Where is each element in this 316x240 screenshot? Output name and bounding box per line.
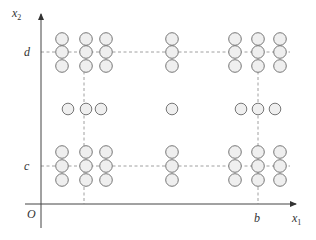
sample-circle [274,160,287,173]
sample-circle [62,103,74,115]
sample-circle [252,33,265,46]
sample-circle [80,146,93,159]
sample-circle [56,60,69,73]
sample-circle [235,103,247,115]
sample-circle [100,33,113,46]
sample-circle [166,174,179,187]
sample-circles [56,33,287,187]
sample-circle [80,60,93,73]
tick-label-c: c [24,159,30,173]
sample-circle [252,146,265,159]
x-axis-label: x1 [291,211,301,227]
sample-circle [274,174,287,187]
sample-circle [80,160,93,173]
sample-circle [166,46,179,59]
y-axis-label: x2 [11,6,21,22]
sample-circle [252,160,265,173]
sample-circle [56,33,69,46]
sample-circle [274,146,287,159]
sample-circle [80,46,93,59]
sample-circle [274,33,287,46]
sample-circle [274,46,287,59]
sample-circle [252,103,264,115]
sample-circle [80,103,92,115]
sample-circle [166,146,179,159]
sample-circle [80,33,93,46]
sample-circle [56,46,69,59]
sample-circle [252,60,265,73]
sample-circle [229,146,242,159]
diagram: x2 x1 O d c b [0,0,316,240]
tick-label-b: b [254,211,260,225]
origin-label: O [27,207,36,221]
sample-circle [56,160,69,173]
sample-circle [100,60,113,73]
sample-circle [229,46,242,59]
sample-circle [95,103,107,115]
sample-circle [274,60,287,73]
sample-circle [56,174,69,187]
sample-circle [166,103,178,115]
sample-circle [166,60,179,73]
sample-circle [229,33,242,46]
sample-circle [252,174,265,187]
sample-circle [100,146,113,159]
sample-circle [269,103,281,115]
sample-circle [80,174,93,187]
sample-circle [166,33,179,46]
sample-circle [252,46,265,59]
sample-circle [166,160,179,173]
tick-label-d: d [24,45,31,59]
sample-circle [229,174,242,187]
sample-circle [100,174,113,187]
sample-circle [229,160,242,173]
sample-circle [100,46,113,59]
sample-circle [100,160,113,173]
sample-circle [229,60,242,73]
sample-circle [56,146,69,159]
